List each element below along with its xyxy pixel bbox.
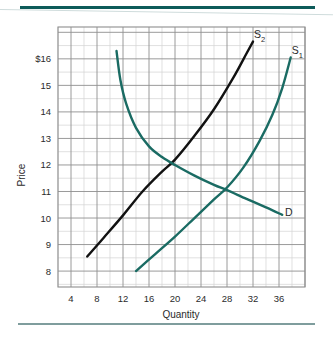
y-tick-11: 11 [41, 186, 51, 197]
y-tick-8: 8 [46, 266, 51, 277]
curve-label-s2-subscript: 2 [261, 35, 265, 44]
y-axis-title: Price [16, 163, 27, 186]
supply-demand-plot: 4812162024283236 89101112131415$16 Quant… [0, 0, 333, 337]
x-tick-4: 4 [68, 293, 73, 304]
y-tick-12: 12 [40, 159, 51, 170]
curve-label-s1-subscript: 1 [299, 51, 303, 60]
curve-label-s2-text: S [254, 28, 261, 40]
x-tick-16: 16 [144, 293, 155, 304]
y-axis-tick-labels: 89101112131415$16 [35, 53, 51, 276]
y-tick-13: 13 [40, 133, 51, 144]
y-tick-14: 14 [40, 106, 51, 117]
x-tick-28: 28 [222, 293, 233, 304]
curve-label-demand: D [285, 206, 293, 218]
x-tick-20: 20 [170, 293, 181, 304]
x-tick-8: 8 [94, 293, 99, 304]
y-tick-9: 9 [46, 239, 51, 250]
y-tick-15: 15 [40, 80, 51, 91]
x-axis-title: Quantity [162, 309, 199, 320]
x-axis-tick-labels: 4812162024283236 [68, 293, 284, 304]
y-tick-dollar-16: $16 [35, 53, 51, 64]
x-tick-32: 32 [248, 293, 259, 304]
y-tick-10: 10 [40, 213, 51, 224]
curve-label-s1-text: S [292, 44, 299, 56]
x-tick-36: 36 [274, 293, 285, 304]
chart-figure: 4812162024283236 89101112131415$16 Quant… [0, 0, 333, 337]
x-tick-24: 24 [196, 293, 207, 304]
x-tick-12: 12 [118, 293, 129, 304]
